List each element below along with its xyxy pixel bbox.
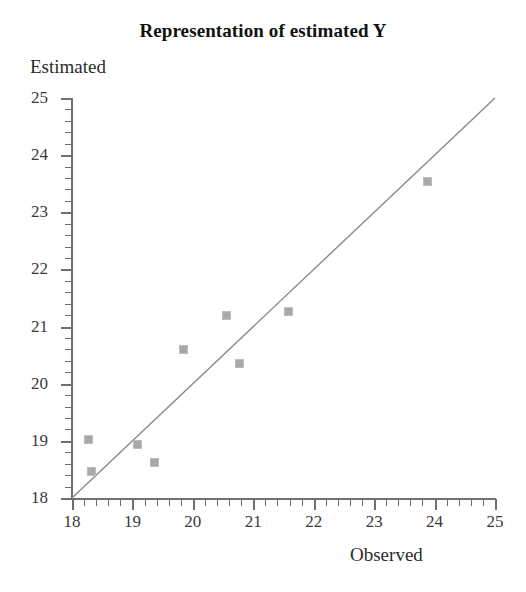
- y-tick-minor: [65, 304, 72, 305]
- y-tick-label: 20: [12, 374, 48, 394]
- y-tick-minor: [65, 201, 72, 202]
- y-tick-minor: [65, 464, 72, 465]
- y-tick-minor: [65, 178, 72, 179]
- y-tick-minor: [65, 167, 72, 168]
- x-tick-minor: [277, 499, 278, 506]
- y-tick-label: 19: [12, 431, 48, 451]
- y-tick-minor: [65, 475, 72, 476]
- x-tick-minor: [96, 499, 97, 506]
- y-tick-label: 25: [12, 88, 48, 108]
- x-tick-minor: [108, 499, 109, 506]
- y-axis-title: Estimated: [30, 56, 106, 78]
- x-tick-label: 18: [64, 512, 81, 532]
- y-tick-minor: [65, 452, 72, 453]
- data-point: [423, 177, 432, 186]
- x-tick-minor: [326, 499, 327, 506]
- y-tick-major: [61, 98, 72, 100]
- x-tick-minor: [181, 499, 182, 506]
- y-tick-label: 23: [12, 202, 48, 222]
- x-tick-minor: [410, 499, 411, 506]
- y-tick-minor: [65, 418, 72, 419]
- x-tick-minor: [205, 499, 206, 506]
- y-tick-minor: [65, 315, 72, 316]
- data-point: [235, 359, 244, 368]
- y-tick-major: [61, 155, 72, 157]
- x-tick-minor: [422, 499, 423, 506]
- chart-title: Representation of estimated Y: [0, 20, 526, 42]
- x-tick-major: [193, 499, 195, 510]
- y-tick-major: [61, 441, 72, 443]
- y-tick-label: 18: [12, 488, 48, 508]
- y-tick-label: 24: [12, 145, 48, 165]
- x-tick-major: [435, 499, 437, 510]
- x-tick-minor: [290, 499, 291, 506]
- x-tick-minor: [459, 499, 460, 506]
- y-tick-minor: [65, 395, 72, 396]
- x-tick-minor: [447, 499, 448, 506]
- y-tick-label: 21: [12, 317, 48, 337]
- y-tick-minor: [65, 224, 72, 225]
- x-tick-label: 25: [487, 512, 504, 532]
- x-tick-minor: [338, 499, 339, 506]
- y-tick-minor: [65, 407, 72, 408]
- x-tick-major: [314, 499, 316, 510]
- y-tick-major: [61, 498, 72, 500]
- x-tick-major: [132, 499, 134, 510]
- y-tick-major: [61, 327, 72, 329]
- data-point: [179, 345, 188, 354]
- y-tick-minor: [65, 144, 72, 145]
- y-tick-minor: [65, 429, 72, 430]
- x-tick-minor: [350, 499, 351, 506]
- y-tick-minor: [65, 361, 72, 362]
- y-tick-minor: [65, 487, 72, 488]
- data-point: [284, 307, 293, 316]
- x-axis-title: Observed: [350, 544, 423, 566]
- x-tick-major: [253, 499, 255, 510]
- y-tick-major: [61, 269, 72, 271]
- x-tick-label: 23: [366, 512, 383, 532]
- x-tick-minor: [265, 499, 266, 506]
- data-point: [150, 458, 159, 467]
- y-tick-minor: [65, 292, 72, 293]
- x-tick-minor: [241, 499, 242, 506]
- x-tick-minor: [169, 499, 170, 506]
- y-tick-minor: [65, 281, 72, 282]
- data-point: [222, 311, 231, 320]
- y-tick-minor: [65, 258, 72, 259]
- y-tick-major: [61, 384, 72, 386]
- y-tick-minor: [65, 338, 72, 339]
- y-tick-minor: [65, 121, 72, 122]
- x-tick-minor: [229, 499, 230, 506]
- x-tick-minor: [362, 499, 363, 506]
- data-point: [133, 440, 142, 449]
- x-tick-label: 20: [184, 512, 201, 532]
- y-tick-minor: [65, 372, 72, 373]
- y-tick-minor: [65, 247, 72, 248]
- data-point: [87, 467, 96, 476]
- x-tick-minor: [217, 499, 218, 506]
- x-tick-major: [374, 499, 376, 510]
- x-tick-label: 24: [426, 512, 443, 532]
- y-tick-minor: [65, 132, 72, 133]
- data-point: [84, 435, 93, 444]
- y-tick-minor: [65, 349, 72, 350]
- x-tick-label: 22: [305, 512, 322, 532]
- x-tick-major: [495, 499, 497, 510]
- x-tick-minor: [386, 499, 387, 506]
- y-tick-minor: [65, 235, 72, 236]
- x-tick-minor: [302, 499, 303, 506]
- x-tick-minor: [471, 499, 472, 506]
- x-tick-minor: [157, 499, 158, 506]
- y-tick-label: 22: [12, 259, 48, 279]
- y-tick-minor: [65, 109, 72, 110]
- x-tick-label: 19: [124, 512, 141, 532]
- x-tick-minor: [120, 499, 121, 506]
- x-tick-major: [72, 499, 74, 510]
- plot-area: 1819202122232425 1819202122232425: [72, 98, 495, 498]
- y-tick-major: [61, 212, 72, 214]
- x-tick-label: 21: [245, 512, 262, 532]
- x-tick-minor: [398, 499, 399, 506]
- x-tick-minor: [84, 499, 85, 506]
- x-tick-minor: [145, 499, 146, 506]
- y-tick-minor: [65, 189, 72, 190]
